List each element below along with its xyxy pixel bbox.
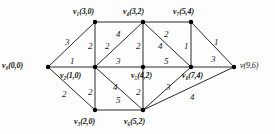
graph-vertex (232, 65, 236, 69)
edge-weight-label: 2 (164, 30, 169, 39)
edge-weight-label: 2 (136, 88, 141, 97)
edges-group (48, 22, 234, 110)
edge-weight-label: 2 (62, 90, 67, 99)
edge-weight-label: 4 (190, 93, 195, 102)
graph-vertex (141, 65, 145, 69)
edge-weight-label: 4 (116, 30, 121, 39)
edge-weight-label: 1 (184, 42, 189, 51)
edge-weight-label: 2 (88, 42, 93, 51)
edge-weight-label: 1 (70, 57, 75, 66)
graph-vertex (141, 108, 145, 112)
vertex-label-v7: v₇(5,4) (173, 8, 194, 16)
edge-weight-label: 3 (211, 55, 216, 64)
graph-vertex (46, 65, 50, 69)
edge-weight-label: 2 (88, 88, 93, 97)
edge-weight-label: 3 (65, 38, 70, 47)
vertex-label-v4: v₄(3,2) (123, 8, 144, 16)
edge-weight-label: 3 (166, 83, 171, 92)
graph-vertex (189, 65, 193, 69)
vertex-label-v5: v₅(4,2) (131, 72, 152, 80)
edge-weight-label: 2 (136, 42, 141, 51)
vertex-label-v1: v₁(3,0) (73, 8, 94, 16)
edge-weight-label: 5 (116, 96, 121, 105)
vertex-label-v6: v₆(5,2) (124, 118, 145, 126)
vertex-label-v3: v₃(2,0) (74, 118, 95, 126)
graph-vertex (141, 20, 145, 24)
graph-vertex (93, 65, 97, 69)
edge-weight-label: 2 (105, 42, 110, 51)
vertex-label-v0: v₀(0,0) (2, 62, 23, 70)
vertices-group (46, 20, 236, 112)
edge-weight-label: 3 (116, 57, 121, 66)
edge-weight-label: 4 (113, 83, 118, 92)
edge-weight-label: 4 (158, 42, 163, 51)
vertex-label-v8: v₈(7,4) (182, 72, 203, 80)
graph-diagram: v₀(0,0)v₁(3,0)v₂(1,0)v₃(2,0)v₄(3,2)v₅(4,… (0, 0, 275, 134)
graph-vertex (189, 20, 193, 24)
graph-vertex (93, 20, 97, 24)
vertex-label-v2: v₂(1,0) (60, 72, 81, 80)
vertex-label-v9: v(9,6) (240, 62, 258, 70)
edge-weight-label: 1 (214, 38, 219, 47)
edge-weight-label: 5 (164, 57, 169, 66)
graph-vertex (93, 108, 97, 112)
graph-canvas (0, 0, 275, 134)
